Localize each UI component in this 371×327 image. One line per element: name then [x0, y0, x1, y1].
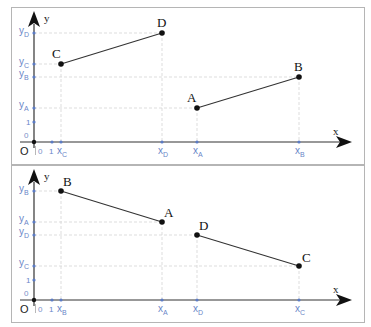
x-tick-labels: 1 xC xD xA xB: [49, 145, 305, 158]
point-a: [194, 105, 200, 111]
label-c: C: [302, 250, 311, 265]
svg-text:xA: xA: [158, 303, 168, 316]
top-panel: y x O 0 0 1 xC xD xA xB: [19, 11, 352, 158]
segment-ab: [197, 77, 299, 108]
y-axis-label: y: [44, 170, 50, 182]
svg-text:xB: xB: [57, 303, 67, 316]
y-zero-label: 0: [24, 289, 29, 298]
svg-text:1: 1: [26, 118, 31, 127]
diagram-canvas: y x O 0 0 1 xC xD xA xB: [0, 0, 371, 327]
origin-point: [32, 298, 36, 302]
svg-text:xD: xD: [158, 145, 168, 158]
point-d: [194, 232, 200, 238]
point-labels: C D A B: [52, 15, 303, 105]
y-tick-labels: yB yA yD yC 1: [19, 183, 31, 285]
segment-cd: [61, 33, 162, 64]
svg-text:yA: yA: [19, 213, 29, 226]
svg-text:yB: yB: [19, 68, 29, 81]
svg-text:yC: yC: [19, 257, 29, 270]
origin-label: O: [20, 145, 29, 157]
label-b: B: [294, 59, 303, 74]
x-axis-label: x: [333, 283, 339, 295]
x-zero-label: 0: [38, 305, 43, 314]
point-c: [58, 61, 64, 67]
point-b: [58, 188, 64, 194]
y-zero-label: 0: [24, 131, 29, 140]
y-axis-label: y: [44, 12, 50, 24]
label-c: C: [52, 46, 61, 61]
point-d: [159, 30, 165, 36]
top-panel-frame: [12, 8, 365, 165]
svg-text:yD: yD: [19, 25, 29, 38]
svg-text:yA: yA: [19, 99, 29, 112]
y-tick-labels: yD yC yB yA 1: [19, 25, 31, 127]
label-b: B: [63, 174, 72, 189]
svg-text:yD: yD: [19, 226, 29, 239]
origin-label: O: [20, 303, 29, 315]
label-a: A: [187, 90, 197, 105]
svg-text:xB: xB: [295, 145, 305, 158]
segment-ba: [61, 191, 162, 222]
bottom-panel: y x O 0 0 1 xB xA xD xC yB: [19, 169, 352, 316]
segment-dc: [197, 235, 299, 266]
svg-text:xA: xA: [193, 145, 203, 158]
point-b: [296, 74, 302, 80]
guide-lines: [34, 33, 299, 142]
x-zero-label: 0: [38, 147, 43, 156]
svg-text:xC: xC: [295, 303, 305, 316]
x-axis-label: x: [333, 125, 339, 137]
svg-text:xC: xC: [57, 145, 67, 158]
svg-text:1: 1: [49, 305, 54, 314]
x-tick-labels: 1 xB xA xD xC: [49, 303, 305, 316]
point-a: [159, 219, 165, 225]
svg-text:1: 1: [26, 276, 31, 285]
svg-text:xD: xD: [193, 303, 203, 316]
svg-text:yB: yB: [19, 183, 29, 196]
label-a: A: [164, 205, 174, 220]
point-c: [296, 263, 302, 269]
point-labels: B A D C: [63, 174, 311, 265]
origin-point: [32, 140, 36, 144]
label-d: D: [157, 15, 166, 30]
label-d: D: [199, 218, 208, 233]
bottom-panel-frame: [12, 166, 365, 323]
svg-text:1: 1: [49, 147, 54, 156]
